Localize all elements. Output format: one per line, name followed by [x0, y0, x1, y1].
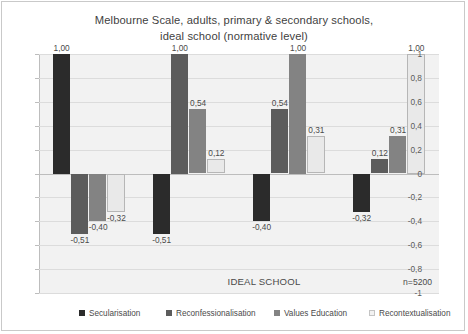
bar-values education-reconfessionalisation — [271, 109, 288, 174]
legend-swatch-icon — [274, 310, 280, 316]
y-axis-tick — [35, 245, 39, 246]
bar-value-label: -0,51 — [142, 235, 180, 245]
gridline — [39, 293, 439, 294]
bar-secularisation-recontextualisation — [107, 174, 124, 212]
legend-item-label: Reconfessionalisation — [176, 309, 256, 318]
legend-item-label: Secularisation — [89, 309, 140, 318]
bar-value-label: 0,31 — [297, 125, 335, 135]
y-axis-tick — [35, 78, 39, 79]
plot-inner: 1,00-0,51-0,40-0,32-0,511,000,540,12-0,4… — [39, 54, 439, 293]
bar-values education-recontextualisation — [307, 136, 324, 173]
y-axis-tick-label: 0,2 — [388, 145, 422, 155]
chart-container: Melbourne Scale, adults, primary & secon… — [1, 1, 465, 331]
y-axis-tick — [35, 126, 39, 127]
bar-value-label: -0,32 — [97, 213, 135, 223]
y-axis-tick-label: 0,4 — [388, 121, 422, 131]
bar-secularisation-secularisation — [53, 54, 70, 174]
y-axis-tick-label: 0 — [388, 169, 422, 179]
bar-value-label: 1,00 — [42, 43, 80, 53]
legend-item-reconfessionalisation[interactable]: Reconfessionalisation — [166, 309, 256, 318]
sample-size-annotation: n=5200 — [403, 277, 432, 287]
legend-swatch-icon — [166, 310, 172, 316]
y-axis-tick — [35, 221, 39, 222]
chart-legend: SecularisationReconfessionalisationValue… — [39, 305, 439, 321]
bar-reconfessionalisation-values education — [189, 109, 206, 174]
y-axis-tick-label: -0,8 — [388, 264, 422, 274]
plot-area: 1,00-0,51-0,40-0,32-0,511,000,540,12-0,4… — [39, 54, 439, 293]
y-axis-tick-label: -0,2 — [388, 192, 422, 202]
y-axis-tick — [35, 150, 39, 151]
y-axis-tick — [35, 54, 39, 55]
legend-item-values education[interactable]: Values Education — [274, 309, 347, 318]
bar-value-label: -0,51 — [61, 235, 99, 245]
bar-value-label: -0,40 — [79, 222, 117, 232]
legend-item-secularisation[interactable]: Secularisation — [79, 309, 140, 318]
bar-recontextualisation-reconfessionalisation — [371, 159, 388, 173]
legend-item-label: Recontextualisation — [379, 309, 450, 318]
legend-item-label: Values Education — [284, 309, 347, 318]
chart-title: Melbourne Scale, adults, primary & secon… — [2, 13, 466, 44]
y-axis-tick — [35, 174, 39, 175]
bar-reconfessionalisation-reconfessionalisation — [171, 54, 188, 174]
bar-value-label: -0,32 — [342, 213, 380, 223]
bar-value-label: 0,54 — [179, 98, 217, 108]
y-axis-tick — [35, 197, 39, 198]
y-axis-tick — [35, 269, 39, 270]
bar-values education-values education — [289, 54, 306, 174]
legend-swatch-icon — [369, 310, 375, 316]
chart-title-line-1: Melbourne Scale, adults, primary & secon… — [2, 13, 466, 29]
chart-title-line-2: ideal school (normative level) — [2, 29, 466, 45]
gridline — [39, 78, 439, 79]
bar-reconfessionalisation-recontextualisation — [207, 159, 224, 173]
y-axis-tick — [35, 293, 39, 294]
y-axis-tick — [35, 102, 39, 103]
y-axis-tick-label: -0,6 — [388, 240, 422, 250]
y-axis-tick-label: 1 — [388, 49, 422, 59]
y-axis-tick-label: 0,8 — [388, 73, 422, 83]
legend-item-recontextualisation[interactable]: Recontextualisation — [369, 309, 450, 318]
bar-value-label: -0,40 — [242, 222, 280, 232]
gridline — [39, 269, 439, 270]
bar-value-label: 1,00 — [161, 43, 199, 53]
bar-value-label: 1,00 — [279, 43, 317, 53]
y-axis-tick-label: -0,4 — [388, 216, 422, 226]
bar-reconfessionalisation-secularisation — [153, 174, 170, 235]
gridline — [39, 54, 439, 55]
bar-recontextualisation-secularisation — [353, 174, 370, 212]
x-axis-label: IDEAL SCHOOL — [204, 276, 324, 287]
bar-values education-secularisation — [253, 174, 270, 222]
y-axis-tick-label: 0,6 — [388, 97, 422, 107]
gridline — [39, 102, 439, 103]
bar-value-label: 0,12 — [197, 148, 235, 158]
y-axis-tick-label: -1 — [388, 288, 422, 298]
legend-swatch-icon — [79, 310, 85, 316]
